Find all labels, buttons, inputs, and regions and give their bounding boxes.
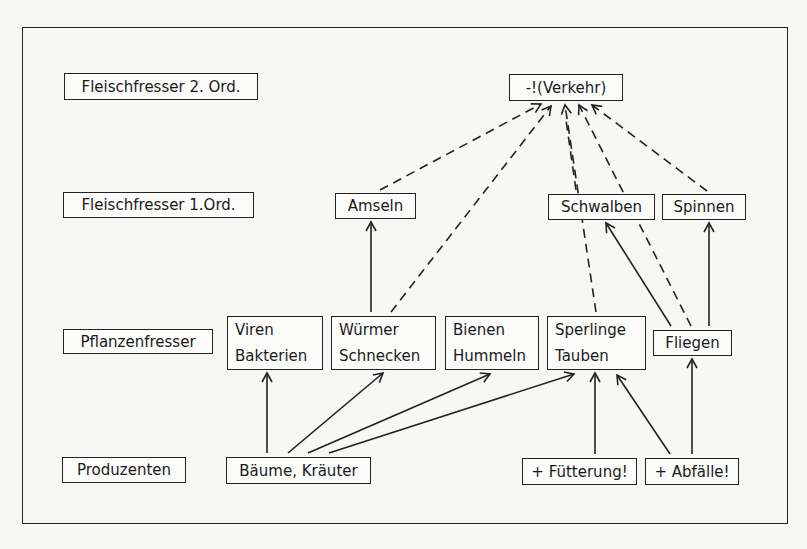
node-verkehr: -!(Verkehr) (509, 74, 623, 101)
level-label-producer: Produzenten (62, 457, 186, 483)
node-label: -!(Verkehr) (526, 79, 607, 97)
level-label-text: Fleischfresser 2. Ord. (82, 78, 241, 96)
level-label-text: Produzenten (77, 461, 171, 479)
node-fliegen: Fliegen (653, 330, 732, 356)
node-label: Spinnen (674, 198, 735, 216)
node-label-line1: Würmer (339, 317, 428, 343)
node-viren-bakterien: Viren Bakterien (227, 316, 323, 370)
node-sperlinge-tauben: Sperlinge Tauben (547, 316, 646, 370)
node-label: Fliegen (665, 334, 719, 352)
node-label-line1: Bienen (453, 317, 531, 343)
node-label-line1: Sperlinge (555, 317, 638, 343)
node-label-line2: Schnecken (339, 343, 428, 369)
node-schwalben: Schwalben (548, 194, 655, 220)
node-bienen-hummeln: Bienen Hummeln (445, 316, 539, 370)
node-label: Schwalben (561, 198, 642, 216)
level-label-carnivore-2: Fleischfresser 2. Ord. (64, 73, 258, 100)
edge-spinnen-verkehr (592, 105, 707, 191)
node-label: Amseln (348, 197, 404, 215)
node-wuermer-schnecken: Würmer Schnecken (331, 316, 436, 370)
node-fuetterung: + Fütterung! (522, 458, 637, 485)
node-abfaelle: + Abfälle! (645, 458, 739, 485)
node-baeume-kraeuter: Bäume, Kräuter (226, 457, 371, 484)
level-label-text: Pflanzenfresser (80, 333, 195, 351)
node-label: Bäume, Kräuter (239, 462, 357, 480)
level-label-text: Fleischfresser 1.Ord. (81, 196, 235, 214)
edge-abfaelle-sperlinge (617, 375, 670, 454)
node-spinnen: Spinnen (662, 194, 746, 220)
node-label-line2: Tauben (555, 343, 638, 369)
level-label-carnivore-1: Fleischfresser 1.Ord. (63, 192, 254, 218)
node-label-line1: Viren (235, 317, 315, 343)
edge-amseln-verkehr (380, 104, 541, 190)
edge-baeume-sperlinge (329, 374, 574, 453)
level-label-herbivore: Pflanzenfresser (63, 329, 213, 354)
node-label: + Fütterung! (531, 463, 627, 481)
node-label-line2: Bakterien (235, 343, 315, 369)
edge-fliegen-schwalben (606, 223, 671, 326)
edge-schwalben-verkehr-segment (566, 120, 576, 190)
node-label: + Abfälle! (654, 463, 729, 481)
node-amseln: Amseln (335, 193, 416, 219)
node-label-line2: Hummeln (453, 343, 531, 369)
